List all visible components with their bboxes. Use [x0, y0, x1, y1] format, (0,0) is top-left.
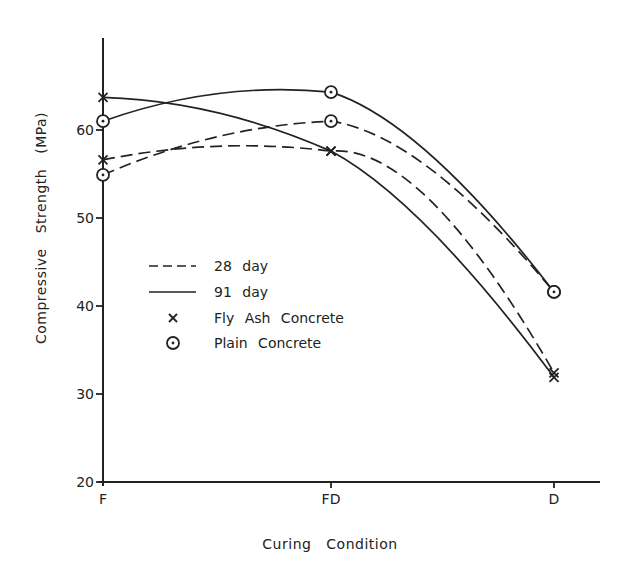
x-tick-label: F	[99, 491, 107, 507]
plain-marker	[325, 115, 337, 127]
curves	[103, 90, 554, 378]
circle-marker-dot	[102, 173, 105, 176]
legend-label: 28 day	[214, 258, 268, 274]
y-tick-label: 30	[76, 386, 94, 402]
plain-marker	[325, 86, 337, 98]
circle-marker-dot	[553, 291, 556, 294]
markers	[97, 86, 560, 382]
legend-item: Fly Ash Concrete	[169, 310, 344, 326]
legend-item: 91 day	[149, 284, 268, 300]
x-tick-label: FD	[322, 491, 341, 507]
legend-label: Plain Concrete	[214, 335, 321, 351]
legend-item: 28 day	[149, 258, 268, 274]
legend-item: Plain Concrete	[167, 335, 321, 351]
x-axis-label: Curing Condition	[262, 536, 397, 552]
y-tick-label: 60	[76, 122, 94, 138]
circle-marker-dot	[102, 120, 105, 123]
legend-label: 91 day	[214, 284, 268, 300]
plain-marker	[97, 169, 109, 181]
circle-marker-dot	[330, 120, 333, 123]
circle-marker-dot	[330, 91, 333, 94]
x-tick-label: D	[549, 491, 560, 507]
series-curve	[103, 97, 554, 377]
circle-marker-dot	[172, 342, 175, 345]
axes: 2030405060FFDD	[76, 38, 600, 507]
y-tick-label: 50	[76, 210, 94, 226]
chart-canvas: 2030405060FFDD 28 day91 dayFly Ash Concr…	[0, 0, 631, 581]
y-tick-label: 40	[76, 298, 94, 314]
plain-marker	[548, 286, 560, 298]
legend-label: Fly Ash Concrete	[214, 310, 344, 326]
legend: 28 day91 dayFly Ash ConcretePlain Concre…	[149, 258, 344, 351]
y-tick-label: 20	[76, 474, 94, 490]
y-axis-label: Compressive Strength (MPa)	[33, 112, 49, 344]
plain-marker	[97, 115, 109, 127]
